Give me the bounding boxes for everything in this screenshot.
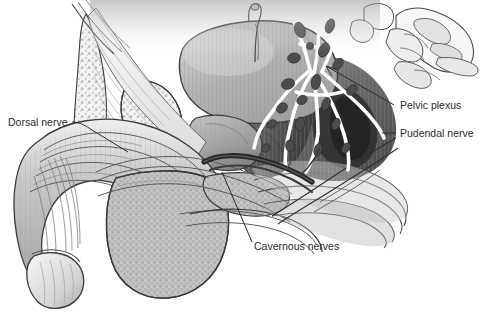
anatomy-illustration: Dorsal nerve Pelvic plexus Pudendal nerv… xyxy=(0,0,480,320)
label-pelvic-plexus: Pelvic plexus xyxy=(400,99,461,111)
label-pudendal-nerve: Pudendal nerve xyxy=(400,127,474,139)
top-shadow-wash xyxy=(90,0,380,56)
label-dorsal-nerve: Dorsal nerve xyxy=(8,116,68,128)
anatomical-figure: Dorsal nerve Pelvic plexus Pudendal nerv… xyxy=(0,0,480,320)
label-cavernous-nerves: Cavernous nerves xyxy=(254,240,339,252)
